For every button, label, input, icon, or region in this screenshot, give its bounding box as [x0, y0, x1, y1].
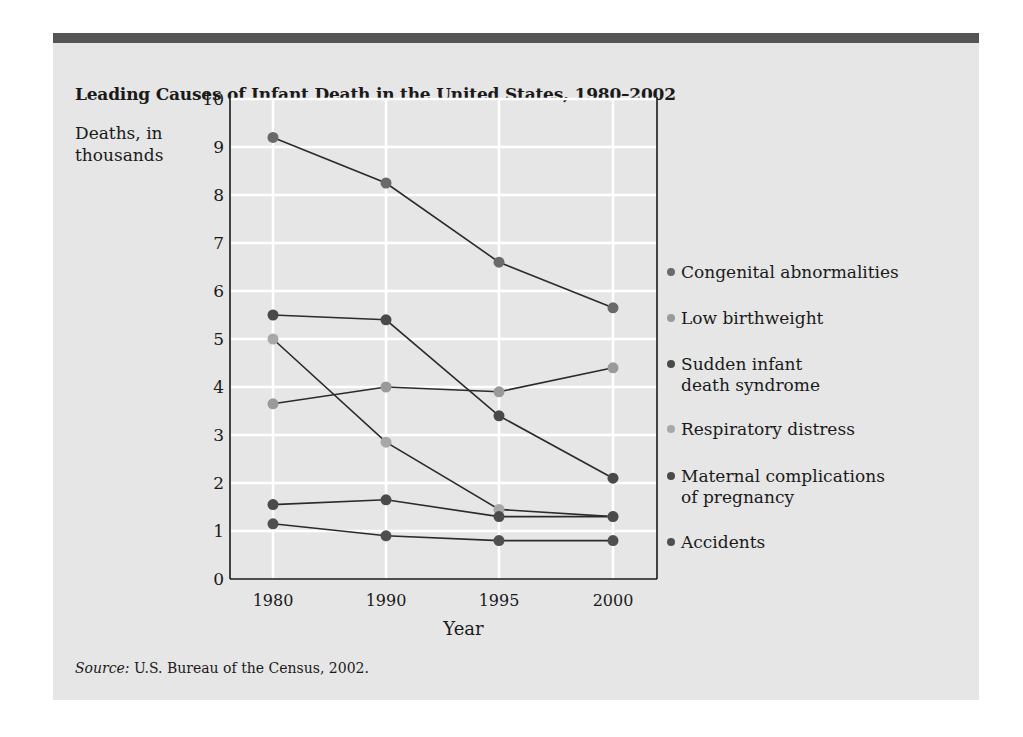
legend-label: Maternal complications [681, 466, 885, 487]
data-point-marker [268, 518, 279, 529]
data-point-marker [494, 410, 505, 421]
source-note: Source: U.S. Bureau of the Census, 2002. [75, 660, 369, 676]
data-point-marker [608, 362, 619, 373]
legend-label: Sudden infant [681, 354, 820, 375]
x-axis-label: Year [442, 618, 484, 639]
y-tick-label: 6 [213, 281, 224, 301]
legend-label: Congenital abnormalities [681, 262, 899, 283]
data-point-marker [608, 473, 619, 484]
data-point-marker [494, 257, 505, 268]
data-point-marker [381, 494, 392, 505]
data-point-marker [268, 310, 279, 321]
legend-item: Congenital abnormalities [667, 262, 899, 283]
legend-item: Sudden infantdeath syndrome [667, 354, 820, 396]
legend-marker-icon [667, 314, 675, 322]
legend-marker-icon [667, 472, 675, 480]
line-chart-plot: 0123456789101980199019952000Year [0, 0, 1023, 737]
legend-label: Respiratory distress [681, 419, 855, 440]
data-point-marker [268, 132, 279, 143]
legend-marker-icon [667, 425, 675, 433]
legend-label: of pregnancy [681, 487, 885, 508]
y-tick-label: 7 [213, 233, 224, 253]
y-tick-label: 2 [213, 473, 224, 493]
data-point-marker [608, 302, 619, 313]
legend-item: Maternal complicationsof pregnancy [667, 466, 885, 508]
legend-label: Low birthweight [681, 308, 823, 329]
data-point-marker [381, 382, 392, 393]
source-text: U.S. Bureau of the Census, 2002. [130, 660, 369, 676]
data-point-marker [381, 437, 392, 448]
source-label: Source: [75, 660, 130, 676]
data-point-marker [608, 535, 619, 546]
data-point-marker [608, 511, 619, 522]
y-tick-label: 1 [213, 521, 224, 541]
x-tick-label: 2000 [593, 591, 634, 610]
data-point-marker [494, 535, 505, 546]
legend-item: Low birthweight [667, 308, 823, 329]
legend-marker-icon [667, 268, 675, 276]
y-tick-label: 10 [202, 89, 224, 109]
data-point-marker [381, 178, 392, 189]
legend-label: death syndrome [681, 375, 820, 396]
y-tick-label: 0 [213, 569, 224, 589]
data-point-marker [494, 386, 505, 397]
y-tick-label: 8 [213, 185, 224, 205]
y-tick-label: 5 [213, 329, 224, 349]
y-tick-label: 3 [213, 425, 224, 445]
series-line [273, 137, 613, 307]
legend-marker-icon [667, 538, 675, 546]
data-point-marker [381, 314, 392, 325]
legend-label: Accidents [681, 532, 765, 553]
x-tick-label: 1980 [253, 591, 294, 610]
data-point-marker [494, 511, 505, 522]
x-tick-label: 1995 [479, 591, 520, 610]
legend-marker-icon [667, 360, 675, 368]
y-tick-label: 9 [213, 137, 224, 157]
legend-item: Accidents [667, 532, 765, 553]
y-tick-label: 4 [213, 377, 224, 397]
data-point-marker [268, 499, 279, 510]
series-line [273, 339, 613, 517]
legend-item: Respiratory distress [667, 419, 855, 440]
data-point-marker [268, 398, 279, 409]
x-tick-label: 1990 [366, 591, 407, 610]
data-point-marker [381, 530, 392, 541]
data-point-marker [268, 334, 279, 345]
